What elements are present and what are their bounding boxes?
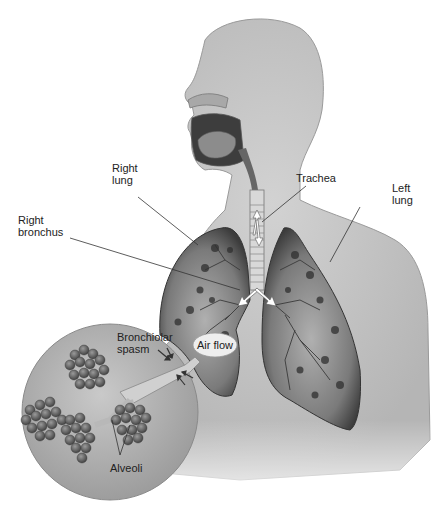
label-trachea: Trachea — [296, 172, 336, 184]
label-alveoli: Alveoli — [110, 462, 142, 474]
label-right-lung: Right lung — [112, 162, 138, 186]
label-left-lung: Left lung — [392, 182, 413, 206]
label-bronchiolar-spasm: Bronchiolar spasm — [117, 331, 173, 355]
anatomy-illustration — [0, 0, 445, 514]
label-air-flow: Air flow — [197, 339, 233, 351]
label-right-bronchus: Right bronchus — [18, 214, 63, 238]
respiratory-diagram: Trachea Right lung Left lung Right bronc… — [0, 0, 445, 514]
